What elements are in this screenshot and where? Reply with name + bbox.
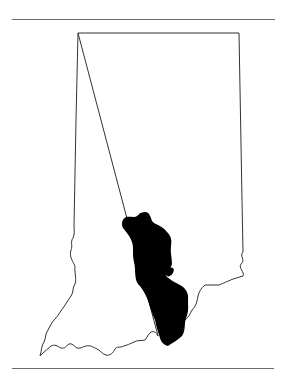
indiana-map (0, 0, 286, 385)
state-outline (40, 33, 243, 356)
bottom-rule (12, 368, 274, 369)
